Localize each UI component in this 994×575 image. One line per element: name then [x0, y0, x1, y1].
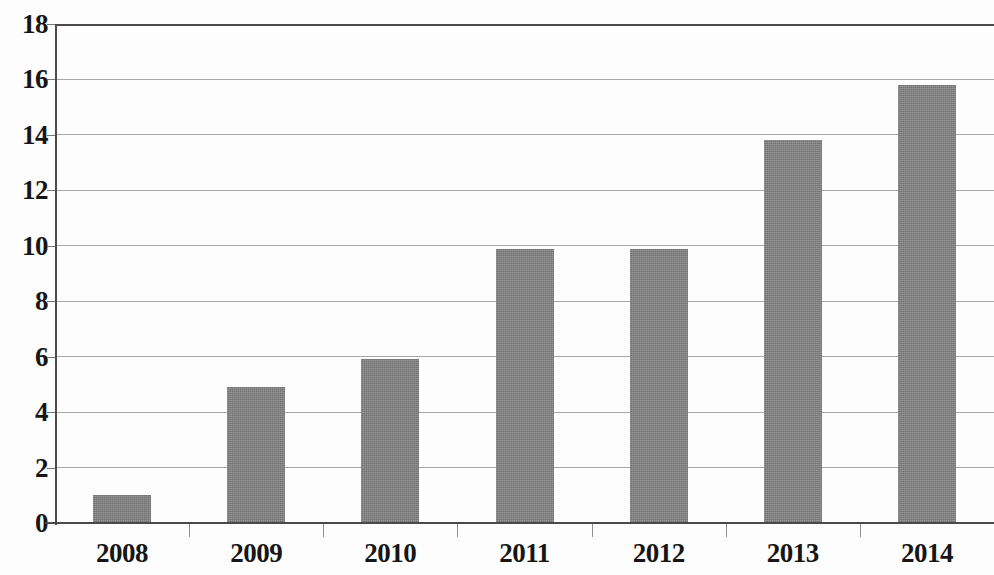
y-axis-tick-label: 16 — [4, 66, 48, 93]
x-axis-tick-mark — [323, 524, 324, 537]
x-axis-tick-mark — [860, 524, 861, 537]
y-axis-tick-label: 18 — [4, 11, 48, 38]
x-axis-tick-mark — [457, 524, 458, 537]
x-axis-tick-mark — [189, 524, 190, 537]
gridline — [55, 245, 994, 246]
plot-area — [55, 0, 994, 575]
x-axis-labels: 2008200920102011201220132014 — [55, 540, 994, 575]
x-axis-tick-label: 2010 — [364, 540, 416, 567]
bar — [630, 249, 688, 523]
x-axis-tick-label: 2008 — [96, 540, 148, 567]
gridline — [55, 24, 994, 26]
x-axis-tick-mark — [592, 524, 593, 537]
x-axis-tick-label: 2011 — [499, 540, 550, 567]
x-axis-tick-label: 2014 — [901, 540, 953, 567]
bar — [764, 140, 822, 523]
y-axis-tick-label: 2 — [4, 454, 48, 481]
y-axis-tick-label: 14 — [4, 121, 48, 148]
y-axis-tick-label: 4 — [4, 399, 48, 426]
y-axis-tick-label: 0 — [4, 510, 48, 537]
x-axis-tick-label: 2012 — [633, 540, 685, 567]
y-axis-tick-label: 12 — [4, 177, 48, 204]
gridline — [55, 134, 994, 135]
gridline — [55, 79, 994, 80]
x-axis-tick-mark — [726, 524, 727, 537]
bar — [227, 387, 285, 523]
bar — [898, 85, 956, 523]
bar — [93, 495, 151, 523]
gridline — [55, 190, 994, 191]
x-axis-line — [45, 522, 994, 524]
bar — [496, 249, 554, 523]
y-axis-labels: 024681012141618 — [0, 0, 48, 575]
x-axis-tick-label: 2013 — [767, 540, 819, 567]
bar — [361, 359, 419, 523]
x-axis-tick-label: 2009 — [230, 540, 282, 567]
y-axis-tick-label: 6 — [4, 343, 48, 370]
y-axis-tick-label: 10 — [4, 232, 48, 259]
bar-chart: 024681012141618 200820092010201120122013… — [0, 0, 994, 575]
y-axis-line — [55, 24, 57, 525]
y-axis-tick-label: 8 — [4, 288, 48, 315]
